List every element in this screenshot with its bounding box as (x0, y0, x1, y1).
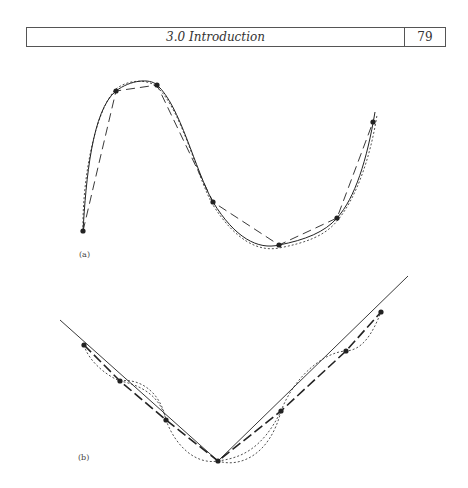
oscillating-interpolant-curve (84, 312, 381, 462)
figure-b (60, 276, 408, 464)
interpolation-figures (0, 0, 468, 488)
true-function-polyline (60, 276, 408, 461)
figure-a-label: (a) (79, 250, 90, 259)
figure-a (80, 81, 377, 249)
rational-interpolant-curve (83, 81, 377, 248)
figure-b-label: (b) (78, 453, 89, 462)
polynomial-interpolant-polyline (83, 85, 373, 245)
true-function-curve (83, 81, 375, 246)
linear-interpolant-polyline (84, 312, 381, 461)
